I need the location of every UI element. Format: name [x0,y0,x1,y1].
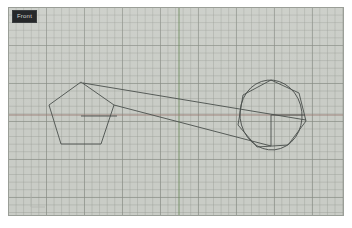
app-root: Front [0,0,352,228]
tangent-lower-line[interactable] [114,105,271,146]
axis-gizmo[interactable] [31,193,45,207]
pentagon-shape[interactable] [49,82,114,144]
scene-canvas[interactable] [9,8,344,216]
viewport-label[interactable]: Front [12,10,37,23]
tangent-upper-line[interactable] [83,83,306,120]
modeling-viewport[interactable]: Front [8,7,344,216]
